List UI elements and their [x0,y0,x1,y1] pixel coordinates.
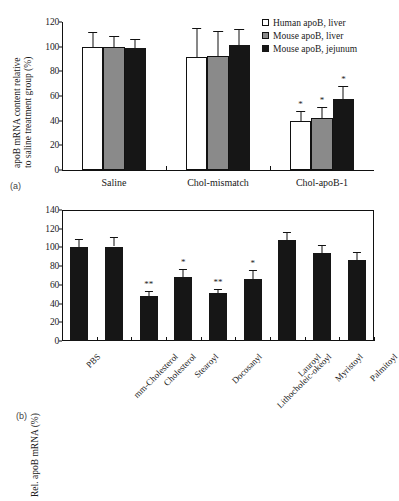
error-bar-panel-a-2-0 [300,111,301,121]
error-cap-panel-b-6-0 [283,232,291,233]
bar-panel-b-8-0 [348,260,366,341]
panel-b-x-tick-mark-2 [166,337,167,341]
significance-marker-panel-a-2-2: * [341,75,346,84]
error-bar-panel-b-8-0 [356,252,357,260]
panel-b-x-tick-mark-8 [374,337,375,341]
significance-marker-panel-a-2-1: * [320,96,325,105]
panel-b-y-tick-mark-0 [59,341,62,342]
error-bar-panel-b-7-0 [322,245,323,253]
error-cap-panel-b-2-0 [145,291,153,292]
panel-a-y-axis-line [62,22,63,170]
bar-panel-a-1-0 [186,57,207,170]
error-bar-panel-a-2-1 [322,107,323,118]
error-bar-panel-a-1-0 [196,28,197,57]
legend-item-mouse-apob-jejunum: Mouse apoB, jejunum [262,42,357,55]
panel-a-y-tick-mark-4 [59,71,62,72]
panel-b-y-tick-mark-7 [59,210,62,211]
bar-panel-b-0-0 [70,247,88,341]
significance-marker-panel-b-5-0: * [250,259,255,268]
panel-a-y-axis-label-line2: to saline treatment group (%) [23,8,34,168]
error-cap-panel-a-2-0 [296,111,306,112]
legend-label-0: Human apoB, liver [273,18,346,28]
bar-panel-a-2-2 [333,99,354,170]
significance-marker-panel-b-4-0: ** [214,278,223,287]
panel-a-y-tick-mark-0 [59,170,62,171]
panel-b-x-tick-mark-3 [201,337,202,341]
x-axis-group-label-1: Chol-mismatch [187,177,249,188]
error-bar-panel-a-0-2 [135,39,136,48]
bar-panel-b-3-0 [174,277,192,341]
x-axis-group-label-2: Chol-apoB-1 [296,177,348,188]
bar-panel-a-1-1 [207,56,228,170]
panel-b-y-tick-mark-4 [59,266,62,267]
error-bar-panel-b-3-0 [183,269,184,277]
error-bar-panel-b-1-0 [114,237,115,247]
error-cap-panel-a-2-2 [339,86,349,87]
panel-a: apoB mRNA content relative to saline tre… [0,0,386,195]
error-cap-panel-b-5-0 [249,270,257,271]
error-cap-panel-a-0-2 [131,39,141,40]
panel-a-legend: Human apoB, liver Mouse apoB, liver Mous… [262,16,357,55]
panel-b-y-tick-mark-5 [59,247,62,248]
legend-label-1: Mouse apoB, liver [273,31,343,41]
panel-b-x-tick-mark-1 [131,337,132,341]
panel-a-x-tick-mark-1 [166,166,167,170]
error-cap-panel-b-1-0 [110,237,118,238]
bar-panel-b-2-0 [140,296,158,341]
panel-b-x-tick-mark-5 [270,337,271,341]
error-bar-panel-a-1-2 [239,29,240,44]
error-cap-panel-b-0-0 [75,239,83,240]
error-cap-panel-a-0-1 [109,36,119,37]
x-axis-category-label-7: Myristoyl [333,351,365,383]
error-cap-panel-a-2-1 [317,107,327,108]
panel-b-y-tick-mark-1 [59,322,62,323]
legend-item-human-apob-liver: Human apoB, liver [262,16,357,29]
panel-b-label: (b) [16,411,27,421]
error-cap-panel-a-1-0 [192,28,202,29]
bar-panel-a-1-2 [229,45,250,170]
legend-swatch-white-icon [262,19,269,26]
panel-a-y-tick-mark-6 [59,22,62,23]
panel-a-x-tick-mark-2 [270,166,271,170]
panel-a-y-axis-label-line1: apoB mRNA content relative [12,8,23,168]
bar-panel-b-6-0 [278,240,296,341]
error-bar-panel-b-6-0 [287,232,288,239]
bar-panel-a-2-0 [290,121,311,170]
panel-b-plot-area: 020406080100120140****** [62,210,374,341]
error-bar-panel-b-0-0 [79,239,80,248]
bar-panel-a-2-1 [311,118,332,170]
error-cap-panel-b-8-0 [353,252,361,253]
error-bar-panel-a-0-0 [92,32,93,47]
error-cap-panel-a-1-1 [213,31,223,32]
bar-panel-a-0-1 [103,47,124,170]
panel-b-y-tick-mark-6 [59,228,62,229]
bar-panel-b-1-0 [105,247,123,342]
panel-a-y-tick-mark-5 [59,46,62,47]
panel-b-y-tick-mark-2 [59,303,62,304]
panel-a-x-axis-line [62,170,374,171]
error-bar-panel-a-0-1 [114,36,115,48]
error-cap-panel-a-0-0 [88,32,98,33]
error-cap-panel-b-4-0 [214,289,222,290]
x-axis-category-label-8: Palmitoyl [368,351,399,383]
x-axis-category-label-3: Stearoyl [193,351,221,379]
panel-a-y-tick-mark-1 [59,145,62,146]
panel-a-y-tick-mark-3 [59,96,62,97]
error-bar-panel-a-2-2 [343,86,344,100]
significance-marker-panel-a-2-0: * [298,100,303,109]
panel-a-label: (a) [10,181,21,191]
bar-panel-b-4-0 [209,293,227,341]
panel-b-x-tick-mark-4 [235,337,236,341]
bar-panel-b-5-0 [244,279,262,341]
panel-a-y-axis-label: apoB mRNA content relative to saline tre… [12,8,34,168]
legend-swatch-gray-icon [262,32,269,39]
error-cap-panel-b-3-0 [179,269,187,270]
error-bar-panel-b-5-0 [252,270,253,279]
x-axis-category-label-4: Docosanyl [230,351,264,385]
legend-item-mouse-apob-liver: Mouse apoB, liver [262,29,357,42]
x-axis-group-label-0: Saline [102,177,127,188]
panel-b-x-tick-mark-6 [305,337,306,341]
panel-b: Rel. apoB mRNA (%) 020406080100120140***… [0,195,386,443]
significance-marker-panel-b-2-0: ** [144,280,153,289]
